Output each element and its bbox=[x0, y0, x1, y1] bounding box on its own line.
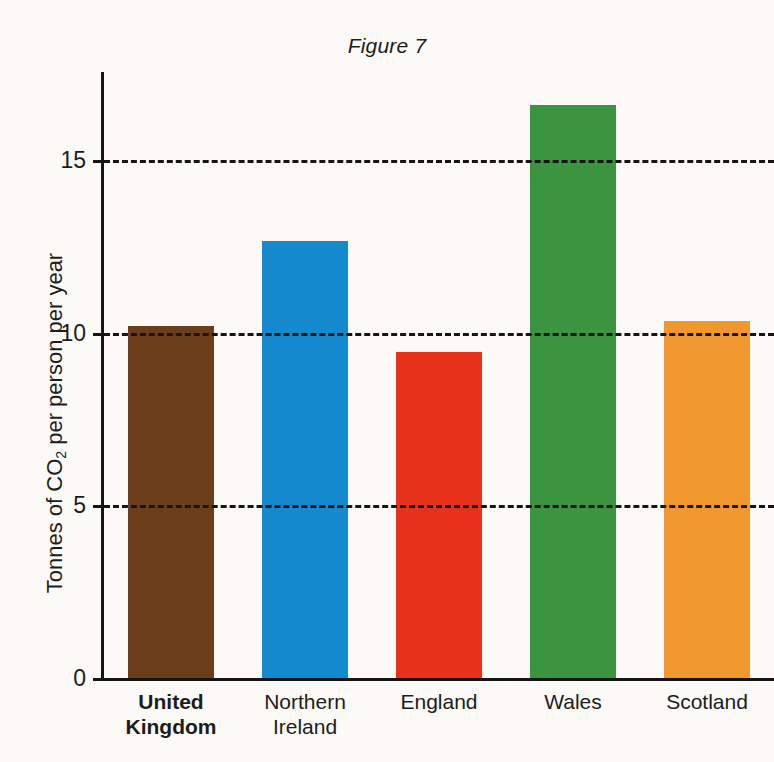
y-tick-10 bbox=[93, 333, 105, 336]
bar-united-kingdom[interactable] bbox=[128, 326, 214, 678]
bar-england[interactable] bbox=[396, 352, 482, 678]
x-label-line: Kingdom bbox=[104, 715, 238, 740]
figure-page: Figure 7 Tonnes of CO2 per person per ye… bbox=[0, 0, 774, 762]
x-label-northern-ireland: NorthernIreland bbox=[238, 690, 372, 740]
y-axis-title: Tonnes of CO2 per person per year bbox=[42, 163, 68, 683]
x-axis-line bbox=[101, 678, 774, 681]
bar-scotland[interactable] bbox=[664, 321, 750, 678]
x-label-line: United bbox=[104, 690, 238, 715]
y-tick-15 bbox=[93, 160, 105, 163]
gridline-15 bbox=[104, 160, 774, 163]
bar-northern-ireland[interactable] bbox=[262, 241, 348, 678]
bar-chart-plot: Tonnes of CO2 per person per year 051015… bbox=[0, 0, 774, 762]
y-tick-label-15: 15 bbox=[46, 147, 86, 174]
y-axis-title-subscript: 2 bbox=[53, 451, 69, 459]
y-tick-label-10: 10 bbox=[46, 320, 86, 347]
y-tick-5 bbox=[93, 505, 105, 508]
y-axis-line bbox=[101, 72, 104, 679]
x-label-wales: Wales bbox=[506, 690, 640, 715]
x-label-line: Scotland bbox=[640, 690, 774, 715]
y-tick-label-0: 0 bbox=[46, 665, 86, 692]
y-tick-0 bbox=[93, 678, 105, 681]
x-label-line: Ireland bbox=[238, 715, 372, 740]
x-label-line: Northern bbox=[238, 690, 372, 715]
x-label-line: Wales bbox=[506, 690, 640, 715]
gridline-10 bbox=[104, 333, 774, 336]
x-label-line: England bbox=[372, 690, 506, 715]
x-label-united-kingdom: UnitedKingdom bbox=[104, 690, 238, 740]
x-label-scotland: Scotland bbox=[640, 690, 774, 715]
y-axis-title-before: Tonnes of CO bbox=[42, 459, 67, 594]
bar-wales[interactable] bbox=[530, 105, 616, 678]
x-label-england: England bbox=[372, 690, 506, 715]
gridline-5 bbox=[104, 505, 774, 508]
y-tick-label-5: 5 bbox=[46, 492, 86, 519]
y-axis-title-after: per person per year bbox=[42, 253, 67, 451]
